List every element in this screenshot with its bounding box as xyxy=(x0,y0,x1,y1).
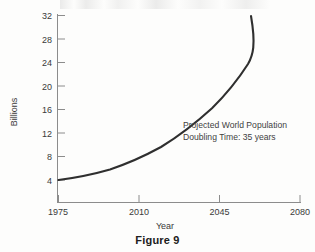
y-tick-label-24: 24 xyxy=(42,58,52,68)
y-axis-ticks xyxy=(58,16,66,181)
y-tick-label-16: 16 xyxy=(42,105,52,115)
y-tick-label-4: 4 xyxy=(47,176,52,186)
figure-container: 32 28 24 20 16 12 8 4 1975 2010 2045 208… xyxy=(0,0,315,252)
x-tick-label-2080: 2080 xyxy=(290,207,310,217)
x-tick-label-2045: 2045 xyxy=(209,207,229,217)
x-axis-ticks xyxy=(59,195,301,203)
figure-caption: Figure 9 xyxy=(0,234,315,246)
population-growth-chart: 32 28 24 20 16 12 8 4 1975 2010 2045 208… xyxy=(0,0,315,234)
y-tick-label-12: 12 xyxy=(42,129,52,139)
population-curve xyxy=(59,16,254,180)
annotation-line-2: Doubling Time: 35 years xyxy=(183,132,276,142)
x-tick-label-1975: 1975 xyxy=(48,207,68,217)
x-axis-title: Year xyxy=(156,221,174,231)
y-tick-label-28: 28 xyxy=(42,35,52,45)
annotation-line-1: Projected World Population xyxy=(183,120,287,130)
y-tick-label-20: 20 xyxy=(42,82,52,92)
y-tick-label-8: 8 xyxy=(47,152,52,162)
x-tick-label-2010: 2010 xyxy=(129,207,149,217)
y-tick-label-32: 32 xyxy=(42,11,52,21)
y-axis-title: Billions xyxy=(9,97,19,126)
